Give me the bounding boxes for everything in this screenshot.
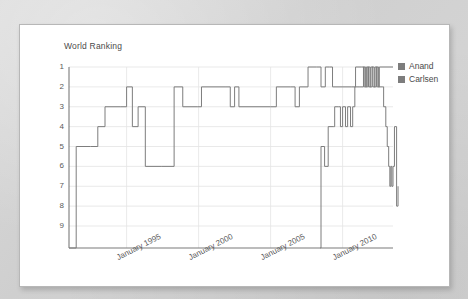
chart-card: World Ranking 123456789 January 1995Janu… [19,24,450,287]
legend-label-anand: Anand [409,61,434,71]
legend-item-anand[interactable]: Anand [398,61,438,71]
screenshot-root: World Ranking 123456789 January 1995Janu… [0,0,468,299]
x-axis-tick-labels: January 1995January 2000January 2005Janu… [20,25,451,288]
x-tick-january-2000: January 2000 [187,232,234,262]
chart-legend: Anand Carlsen [398,61,438,87]
legend-swatch-carlsen [398,76,405,83]
x-tick-january-1995: January 1995 [115,232,162,262]
x-tick-january-2010: January 2010 [331,232,378,262]
x-tick-january-2005: January 2005 [259,232,306,262]
legend-label-carlsen: Carlsen [409,74,438,84]
legend-item-carlsen[interactable]: Carlsen [398,74,438,84]
legend-swatch-anand [398,63,405,70]
